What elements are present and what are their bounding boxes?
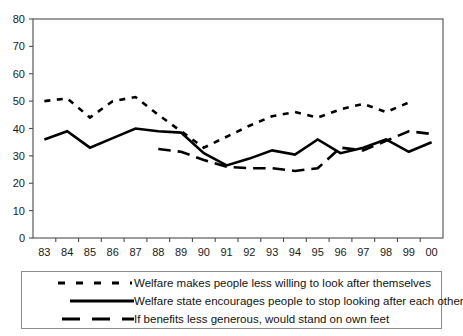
y-axis-ticks [29, 19, 33, 238]
svg-text:0: 0 [19, 232, 25, 244]
legend-label-2: If benefits less generous, would stand o… [134, 312, 389, 326]
chart-legend: Welfare makes people less willing to loo… [21, 271, 442, 329]
legend-item-2: If benefits less generous, would stand o… [22, 310, 441, 328]
chart-plot-area: 01020304050607080 8384858687888990919293… [0, 0, 463, 262]
svg-text:80: 80 [13, 13, 25, 25]
legend-item-1: Welfare state encourages people to stop … [22, 292, 441, 310]
svg-text:87: 87 [129, 246, 141, 258]
svg-text:88: 88 [152, 246, 164, 258]
legend-item-0: Welfare makes people less willing to loo… [22, 274, 441, 292]
svg-text:00: 00 [425, 246, 437, 258]
legend-label-0: Welfare makes people less willing to loo… [134, 276, 431, 290]
svg-text:99: 99 [403, 246, 415, 258]
chart-figure: 01020304050607080 8384858687888990919293… [0, 0, 463, 336]
svg-text:70: 70 [13, 40, 25, 52]
data-series-layer [44, 97, 431, 171]
x-axis-ticks [56, 238, 420, 242]
svg-text:95: 95 [312, 246, 324, 258]
y-axis-tick-labels: 01020304050607080 [13, 13, 25, 244]
legend-swatch-dashed [56, 312, 134, 326]
legend-swatch-solid [56, 294, 134, 308]
series-line-2 [158, 131, 431, 171]
svg-text:84: 84 [61, 246, 73, 258]
svg-text:92: 92 [243, 246, 255, 258]
svg-text:90: 90 [198, 246, 210, 258]
axis-lines [33, 19, 443, 238]
legend-swatch-dotted [56, 276, 134, 290]
x-axis-tick-labels: 838485868788899091929394959697989900 [38, 246, 437, 258]
svg-text:20: 20 [13, 177, 25, 189]
line-chart-svg: 01020304050607080 8384858687888990919293… [0, 0, 463, 262]
svg-text:96: 96 [334, 246, 346, 258]
svg-text:91: 91 [220, 246, 232, 258]
svg-text:10: 10 [13, 205, 25, 217]
svg-text:98: 98 [380, 246, 392, 258]
svg-text:83: 83 [38, 246, 50, 258]
svg-text:94: 94 [289, 246, 301, 258]
svg-text:93: 93 [266, 246, 278, 258]
series-line-0 [44, 97, 408, 148]
svg-text:30: 30 [13, 150, 25, 162]
svg-text:86: 86 [107, 246, 119, 258]
svg-text:97: 97 [357, 246, 369, 258]
svg-text:89: 89 [175, 246, 187, 258]
svg-text:60: 60 [13, 68, 25, 80]
svg-text:50: 50 [13, 95, 25, 107]
legend-label-1: Welfare state encourages people to stop … [134, 294, 463, 308]
svg-text:85: 85 [84, 246, 96, 258]
svg-text:40: 40 [13, 123, 25, 135]
